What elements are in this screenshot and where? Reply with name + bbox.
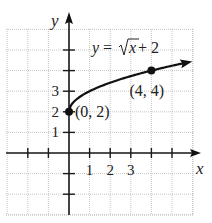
equation-label: y = x + 2: [90, 39, 159, 57]
x-axis-label: x: [195, 159, 204, 178]
equation-lhs: y =: [90, 39, 112, 57]
chart: (0, 2)(4, 4) 123123 x y y = x + 2: [0, 0, 212, 223]
point-marker: [147, 67, 155, 75]
point-label: (4, 4): [129, 82, 164, 100]
point-label: (0, 2): [75, 103, 110, 121]
equation-radicand: x: [128, 39, 136, 56]
equation-rhs: + 2: [138, 39, 159, 56]
tick-labels: 123123: [52, 83, 135, 178]
x-tick-label: 1: [86, 162, 94, 178]
grid: [6, 29, 193, 215]
x-tick-label: 2: [106, 162, 114, 178]
points: (0, 2)(4, 4): [65, 67, 164, 121]
y-axis-label: y: [49, 11, 59, 30]
y-tick-label: 3: [52, 83, 60, 99]
y-tick-label: 1: [52, 124, 60, 140]
x-tick-label: 3: [127, 162, 135, 178]
y-tick-label: 2: [52, 104, 60, 120]
point-marker: [65, 108, 73, 116]
